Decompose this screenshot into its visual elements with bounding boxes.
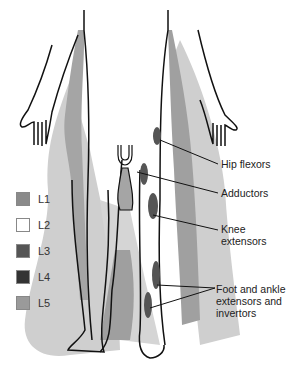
right-torso-outline [159, 10, 168, 345]
legend-label: L3 [38, 245, 50, 257]
legend-label: L2 [38, 219, 50, 231]
callout-knee-extensors: Knee extensors [221, 223, 267, 247]
legend-item-l3: L3 [16, 238, 50, 264]
callout-foot-ankle: Foot and ankle extensors and invertors [216, 283, 285, 319]
legend-label: L5 [38, 297, 50, 309]
hip-flexors-muscle [153, 127, 161, 145]
legend-label: L1 [38, 193, 50, 205]
foot-ankle-muscle-lower [144, 292, 152, 318]
groin-outline [118, 145, 132, 165]
callout-hip-flexors: Hip flexors [221, 158, 271, 170]
legend: L1 L2 L3 L4 L5 [16, 186, 50, 316]
legend-label: L4 [38, 271, 50, 283]
legend-item-l1: L1 [16, 186, 50, 212]
legend-item-l5: L5 [16, 290, 50, 316]
swatch-l1 [16, 192, 30, 206]
swatch-l5 [16, 296, 30, 310]
legend-item-l4: L4 [16, 264, 50, 290]
legend-item-l2: L2 [16, 212, 50, 238]
callout-adductors: Adductors [221, 187, 268, 199]
swatch-l2 [16, 218, 30, 232]
swatch-l4 [16, 270, 30, 284]
swatch-l3 [16, 244, 30, 258]
